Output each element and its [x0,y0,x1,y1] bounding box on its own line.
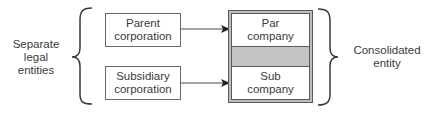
box-text: company [247,30,294,43]
label-line: legal [4,51,68,64]
parent-corporation-box: Parent corporation [105,13,181,47]
box-text: company [247,83,294,96]
box-text: Subsidiary [116,70,170,83]
box-text: Par [262,17,280,30]
box-text: Parent [126,17,160,30]
par-company-box: Par company [231,13,310,47]
consolidation-diagram: Separate legal entities Parent corporati… [0,0,433,115]
box-text: corporation [114,83,172,96]
right-brace-icon [318,9,338,105]
label-line: Consolidated [346,44,428,57]
label-line: entities [4,64,68,77]
left-brace-icon [72,8,92,104]
label-line: Separate [4,38,68,51]
subsidiary-corporation-box: Subsidiary corporation [105,66,181,100]
box-text: corporation [114,30,172,43]
consolidated-entity-label: Consolidated entity [346,44,428,70]
separate-legal-entities-label: Separate legal entities [4,38,68,77]
label-line: entity [346,57,428,70]
sub-company-box: Sub company [231,66,310,100]
box-text: Sub [260,70,280,83]
